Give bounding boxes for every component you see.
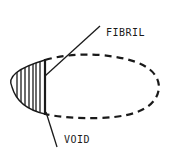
- void-leader-line: [46, 112, 57, 147]
- fibril-leader-line: [45, 26, 100, 76]
- fibril-label: FIBRIL: [106, 28, 145, 38]
- void-label: VOID: [64, 135, 90, 145]
- diagram-canvas: FIBRIL VOID: [0, 0, 173, 160]
- hatched-void-region: [11, 55, 45, 120]
- dashed-ellipse: [45, 55, 159, 119]
